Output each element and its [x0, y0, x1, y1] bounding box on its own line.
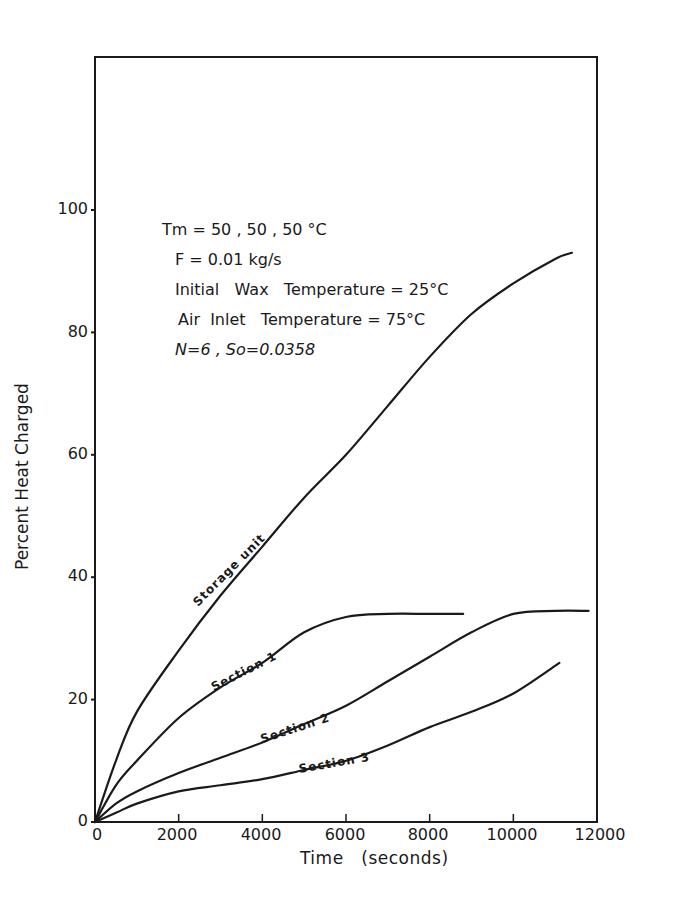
annotation-air-temp: Air Inlet Temperature = 75°C: [178, 310, 425, 329]
curve-section-3: [95, 663, 559, 822]
annotation-flow: F = 0.01 kg/s: [175, 250, 282, 269]
annotation-n-so: N=6 , So=0.0358: [175, 340, 315, 359]
data-curves: [95, 253, 589, 822]
x-tick-label-10000: 10000: [477, 825, 547, 844]
curve-section-2: [95, 611, 589, 822]
x-tick-label-2000: 2000: [142, 825, 212, 844]
curve-storage-unit: [95, 253, 572, 822]
y-tick-label-100: 100: [48, 199, 88, 218]
y-tick-label-20: 20: [48, 689, 88, 708]
y-tick-label-40: 40: [48, 566, 88, 585]
plot-frame: [95, 57, 597, 822]
y-tick-label-80: 80: [48, 322, 88, 341]
x-tick-label-0: 0: [62, 825, 132, 844]
x-tick-label-4000: 4000: [226, 825, 296, 844]
curve-section-1: [95, 614, 463, 822]
x-axis-label: Time (seconds): [300, 848, 449, 868]
y-tick-label-60: 60: [48, 444, 88, 463]
annotation-tm: Tm = 50 , 50 , 50 °C: [162, 220, 327, 239]
x-tick-label-8000: 8000: [393, 825, 463, 844]
x-axis-ticks: [95, 814, 597, 822]
x-tick-label-6000: 6000: [310, 825, 380, 844]
x-tick-label-12000: 12000: [565, 825, 635, 844]
annotation-wax-temp: Initial Wax Temperature = 25°C: [175, 280, 448, 299]
